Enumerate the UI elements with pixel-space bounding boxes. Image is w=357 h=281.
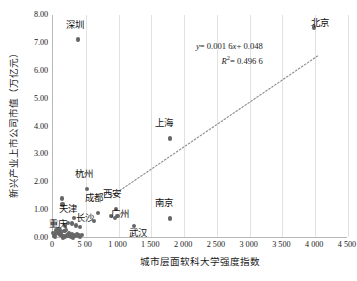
point-label-西安: 西安 (103, 190, 121, 199)
x-axis-tick-label: 4 000 (305, 241, 323, 249)
x-axis-tick-label: 2 500 (207, 241, 225, 249)
x-axis-tick-label: 5 00 (78, 241, 92, 249)
point-label-广州: 广州 (111, 210, 129, 219)
x-axis-tick-label: 2 000 (174, 241, 192, 249)
point-label-北京: 北京 (311, 19, 329, 28)
x-axis-tick-label: 1 000 (108, 241, 126, 249)
x-axis-tick-label: 3 500 (272, 241, 290, 249)
data-point (74, 223, 78, 227)
gridline-vertical (184, 15, 185, 237)
x-axis-tick-label: 0 (50, 241, 54, 249)
point-label-成都: 成都 (85, 194, 103, 203)
point-label-武汉: 武汉 (129, 229, 147, 238)
r-value: = 0.496 6 (230, 56, 263, 66)
point-label-深圳: 深圳 (66, 21, 84, 30)
point-label-长沙: 长沙 (76, 214, 94, 223)
x-axis-tick-label: 1 500 (141, 241, 159, 249)
equation-rhs: = 0.001 6 (200, 41, 233, 51)
point-label-天津: 天津 (59, 205, 77, 214)
data-point (60, 196, 64, 200)
data-point-上海 (168, 136, 172, 140)
r-squared-value: R2= 0.496 6 (196, 52, 263, 67)
equation-tail: + 0.048 (236, 41, 262, 51)
x-axis-title: 城市层面软科大学强度指数 (52, 256, 347, 267)
data-point-深圳 (76, 37, 80, 41)
data-point (61, 235, 65, 239)
gridline-vertical (151, 15, 152, 237)
x-axis-tick-label: 3 000 (239, 241, 257, 249)
data-point-成都 (96, 211, 100, 215)
gridline-vertical (348, 15, 349, 237)
point-label-南京: 南京 (155, 199, 173, 208)
y-axis-title: 新兴产业上市公司市值（万亿元） (8, 13, 19, 233)
x-axis-tick-label: 4 500 (338, 241, 356, 249)
point-label-重庆: 重庆 (49, 220, 67, 229)
scatter-chart: 0.001.002.003.004.005.006.007.008.00 05 … (0, 0, 357, 281)
regression-annotation: y= 0.001 6x+ 0.048 R2= 0.496 6 (196, 41, 263, 67)
data-point (71, 235, 75, 239)
gridline-vertical (315, 15, 316, 237)
gridline-vertical (119, 15, 120, 237)
data-point-南京 (168, 216, 172, 220)
gridline-vertical (86, 15, 87, 237)
gridline-vertical (282, 15, 283, 237)
point-label-杭州: 杭州 (75, 170, 93, 179)
y-axis-tick-label: 0.00 (4, 234, 48, 242)
point-label-上海: 上海 (155, 119, 173, 128)
regression-equation: y= 0.001 6x+ 0.048 (196, 41, 263, 52)
